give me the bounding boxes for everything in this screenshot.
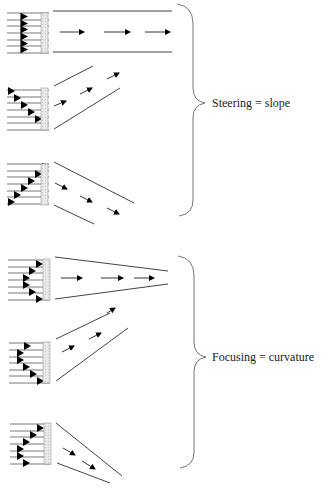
transducer-array [44, 423, 51, 464]
transducer-array [41, 88, 48, 130]
steering-label: Steering = slope [212, 96, 290, 110]
brace-steering-icon [177, 4, 205, 216]
focusing-label: Focusing = curvature [212, 350, 314, 364]
brace-focusing-icon [178, 256, 206, 468]
delay-markers-icon [23, 260, 43, 303]
panel-focus-straight [8, 257, 168, 303]
panel-steer-up [7, 66, 120, 130]
transducer-array [41, 13, 48, 53]
transducer-array [41, 164, 48, 205]
panel-steer-straight [7, 11, 172, 53]
transducer-array [43, 259, 50, 300]
diagram-canvas [0, 0, 321, 497]
beam-edges [53, 11, 172, 52]
delay-markers-icon [17, 424, 44, 467]
panel-focus-up [9, 308, 128, 385]
delay-markers-icon [17, 342, 44, 385]
panel-steer-down [7, 162, 134, 224]
panel-focus-down [10, 423, 122, 483]
transducer-array [43, 342, 50, 383]
